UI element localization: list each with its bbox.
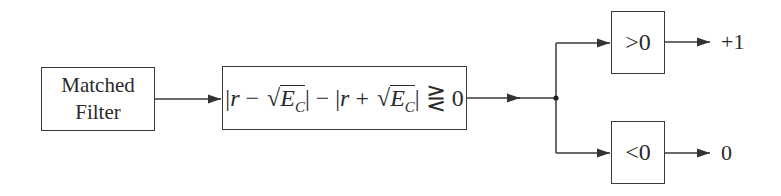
matched-filter-label-line1: Matched (61, 72, 134, 99)
junction-dot (553, 95, 558, 100)
matched-filter-label-line2: Filter (75, 99, 121, 126)
matched-filter-block: Matched Filter (41, 67, 155, 131)
decision-rule-block: |r − √EC| − |r + √EC| ⋛ 0 (222, 66, 467, 130)
less-than-zero-label: <0 (625, 139, 651, 166)
greater-than-zero-block: >0 (611, 11, 665, 74)
decision-formula: |r − √EC| − |r + √EC| ⋛ 0 (225, 84, 463, 113)
output-zero: 0 (721, 140, 732, 166)
output-plus-one: +1 (721, 29, 744, 55)
greater-than-zero-label: >0 (625, 29, 651, 56)
less-than-zero-block: <0 (611, 121, 665, 184)
